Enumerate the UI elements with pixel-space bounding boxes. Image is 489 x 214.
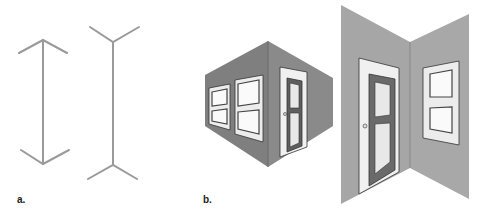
arrow-line-fins-in <box>88 27 139 179</box>
illusion-figure <box>0 0 489 214</box>
door-knob <box>363 124 367 128</box>
picture-panel-small <box>209 84 230 130</box>
outside-corner-room <box>205 41 333 167</box>
inside-corner-room <box>341 5 469 204</box>
door-outside-corner <box>280 67 307 157</box>
door-knob <box>284 113 287 116</box>
panel-label-a: a. <box>17 194 25 205</box>
panel-label-b: b. <box>203 194 212 205</box>
door-inside-corner <box>359 58 399 194</box>
arrow-line-fins-out <box>19 40 69 164</box>
picture-panel-large <box>235 75 263 142</box>
picture-panel-inside <box>423 61 459 145</box>
